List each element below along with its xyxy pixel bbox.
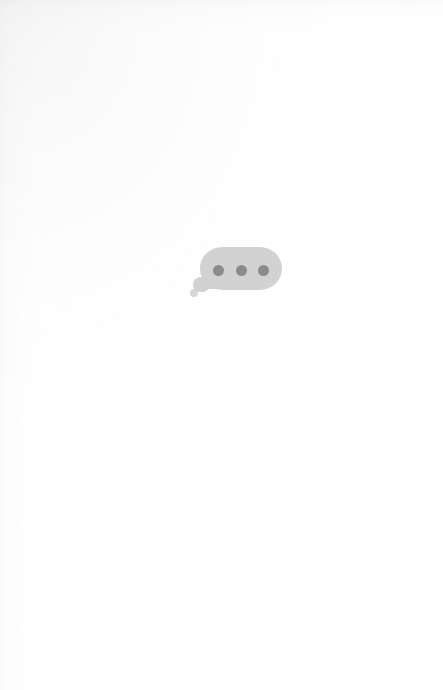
typing-indicator-label: Typing (189, 242, 190, 243)
typing-dots-row (213, 264, 269, 276)
typing-dot-3 (258, 265, 269, 276)
paper-vignette (0, 0, 443, 690)
paper-grain-texture (0, 0, 443, 690)
typing-indicator-icon: Typing (190, 243, 286, 297)
typing-dot-2 (236, 265, 247, 276)
typing-dot-1 (213, 265, 224, 276)
page-canvas: Typing (0, 0, 443, 690)
